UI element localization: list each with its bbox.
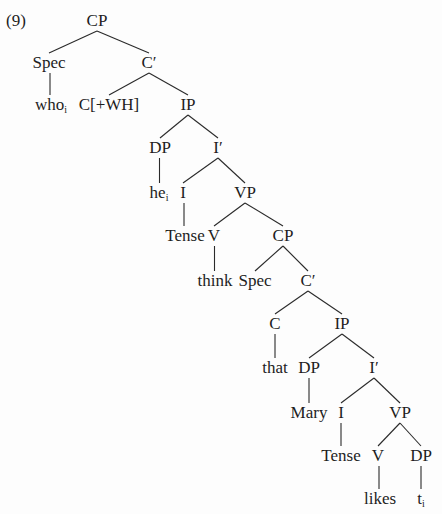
tree-branch-line [374,378,400,403]
node-label: C′ [141,53,156,72]
tree-node: DP [149,139,171,157]
tree-branch-line [400,423,421,446]
node-label: he [150,183,166,202]
node-index-subscript: i [166,192,169,203]
tree-node: C′ [141,54,156,72]
tree-node: I′ [213,139,222,157]
node-label: Spec [238,271,271,290]
tree-branch-line [283,246,308,271]
tree-node: I′ [369,359,378,377]
node-label: VP [234,183,256,202]
tree-branch-line [188,115,218,138]
node-label: that [262,358,288,377]
tree-node: Tense [321,447,360,465]
tree-branch-line [218,158,245,183]
tree-branch-line [160,115,188,138]
tree-branch-line [97,31,149,53]
tree-node: likes [364,490,396,508]
node-label: V [372,446,384,465]
tree-node: C[+WH] [79,96,140,114]
tree-node: DP [410,447,432,465]
node-label: CP [87,11,108,30]
node-label: likes [364,489,396,508]
tree-node: ti [417,490,425,508]
node-label: IP [334,314,349,333]
tree-node: CP [273,227,294,245]
tree-branch-line [183,158,218,183]
node-label: I′ [369,358,378,377]
node-label: C [269,314,280,333]
tree-node: DP [298,359,320,377]
node-label: DP [298,358,320,377]
node-label: I [180,183,186,202]
tree-node: V [208,227,220,245]
tree-node: IP [334,315,349,333]
node-label: VP [389,403,411,422]
tree-branch-line [341,378,374,403]
tree-node: whoi [35,96,67,114]
tree-node: V [372,447,384,465]
tree-branch-line [378,423,400,446]
node-label: CP [273,226,294,245]
tree-branches [0,0,442,514]
node-label: C′ [300,271,315,290]
tree-node: that [262,359,288,377]
tree-branch-line [255,246,283,271]
tree-node: I [338,404,344,422]
tree-branch-line [275,291,308,314]
tree-node: think [198,272,233,290]
tree-node: C′ [300,272,315,290]
tree-node: VP [234,184,256,202]
tree-node: CP [87,12,108,30]
tree-node: hei [150,184,169,202]
node-label: I [338,403,344,422]
tree-branch-line [214,203,245,226]
tree-branch-line [149,73,188,95]
node-label: Tense [165,226,204,245]
node-label: DP [149,138,171,157]
node-index-subscript: i [64,104,67,115]
node-label: IP [180,95,195,114]
node-label: Mary [291,403,328,422]
node-label: Tense [321,446,360,465]
tree-node: I [180,184,186,202]
node-label: think [198,271,233,290]
tree-node: Tense [165,227,204,245]
tree-node: Spec [238,272,271,290]
tree-branch-line [109,73,149,95]
node-label: who [35,95,64,114]
node-index-subscript: i [422,498,425,509]
tree-branch-line [309,334,342,358]
tree-branch-line [342,334,374,358]
tree-node: VP [389,404,411,422]
node-label: DP [410,446,432,465]
node-label: I′ [213,138,222,157]
tree-branch-line [49,31,97,53]
tree-branch-line [308,291,342,314]
tree-node: C [269,315,280,333]
tree-node: IP [180,96,195,114]
node-label: V [208,226,220,245]
tree-branch-line [245,203,283,226]
node-label: C[+WH] [79,95,140,114]
syntax-tree-figure: (9) CPSpecC′whoiC[+WH]IPDPI′heiIVPTenseV… [0,0,442,514]
node-label: Spec [32,53,65,72]
tree-node: Spec [32,54,65,72]
tree-node: Mary [291,404,328,422]
